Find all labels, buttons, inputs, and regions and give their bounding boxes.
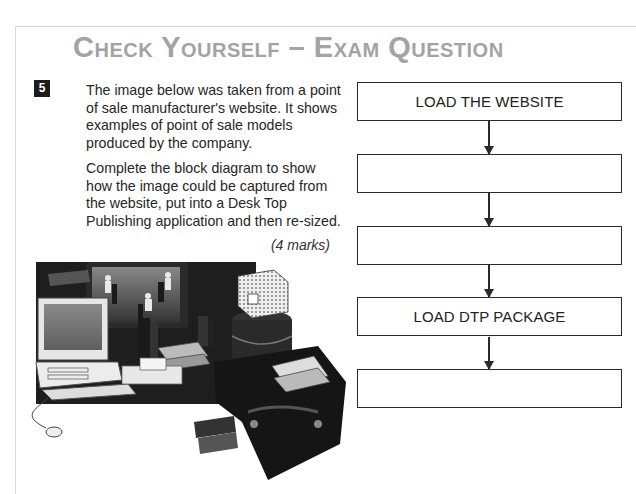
- question-text: The image below was taken from a point o…: [86, 82, 341, 238]
- flow-box-4: LOAD DTP PACKAGE: [357, 297, 622, 336]
- flow-box-2[interactable]: [357, 154, 622, 193]
- flow-box-label: LOAD DTP PACKAGE: [414, 308, 566, 325]
- question-paragraph: The image below was taken from a point o…: [86, 82, 341, 152]
- point-of-sale-illustration: [18, 262, 348, 480]
- flow-box-1: LOAD THE WEBSITE: [357, 82, 622, 121]
- question-paragraph: Complete the block diagram to show how t…: [86, 160, 341, 230]
- arrow-down-icon: [488, 265, 490, 297]
- arrow-down-icon: [488, 193, 490, 226]
- flow-box-5[interactable]: [357, 369, 622, 408]
- flow-box-3[interactable]: [357, 226, 622, 265]
- flow-box-label: LOAD THE WEBSITE: [415, 93, 563, 110]
- arrow-down-icon: [488, 337, 490, 369]
- page-title: Check Yourself – Exam Question: [73, 30, 613, 64]
- question-number-badge: 5: [34, 80, 50, 97]
- marks-label: (4 marks): [240, 237, 330, 253]
- arrow-down-icon: [488, 121, 490, 154]
